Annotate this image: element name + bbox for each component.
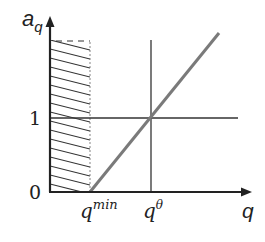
y-axis-arrow-icon [46, 16, 55, 27]
diagram-canvas: aq 1 0 qmin qθ q [0, 0, 265, 242]
x-axis-label: q [242, 199, 254, 222]
x-tick-qmin: qmin [80, 197, 118, 223]
diagonal-line [90, 33, 219, 192]
x-axis-arrow-icon [241, 188, 252, 197]
axes [46, 16, 253, 197]
y-tick-1: 1 [29, 107, 41, 129]
y-tick-0: 0 [29, 181, 41, 203]
hatched-region [50, 40, 90, 192]
x-tick-qtheta: qθ [143, 198, 164, 223]
y-axis-label: aq [22, 6, 43, 35]
